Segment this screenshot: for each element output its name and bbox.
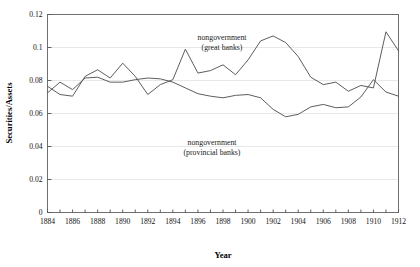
x-tick-label: 1900	[240, 217, 255, 226]
x-tick-label: 1892	[140, 217, 155, 226]
x-tick-label: 1912	[391, 217, 406, 226]
securities-assets-line-chart: 1884188618881890189218941896189819001902…	[0, 0, 420, 267]
y-axis-title: Securities/Assets	[4, 82, 14, 144]
x-tick-label: 1886	[65, 217, 80, 226]
x-tick-label: 1898	[215, 217, 230, 226]
x-tick-label: 1894	[165, 217, 180, 226]
y-axis-tickmarks	[48, 15, 52, 213]
y-tick-label: 0.08	[29, 76, 42, 85]
series-line-provincial-banks	[48, 77, 399, 117]
x-tick-label: 1902	[266, 217, 281, 226]
y-tick-label: 0.04	[29, 142, 42, 151]
x-tick-label: 1906	[316, 217, 331, 226]
annotation-great-banks-line1: nongovernment	[198, 33, 248, 42]
y-tick-label: 0.06	[29, 109, 42, 118]
x-tick-label: 1888	[90, 217, 105, 226]
gridlines	[48, 48, 399, 180]
y-tick-label: 0.1	[33, 43, 43, 52]
chart-container: 1884188618881890189218941896189819001902…	[0, 0, 420, 267]
y-axis-tick-labels: 00.020.040.060.080.10.12	[29, 10, 43, 217]
y-tick-label: 0.12	[29, 10, 42, 19]
x-tick-label: 1890	[115, 217, 130, 226]
y-tick-label: 0.02	[29, 175, 42, 184]
annotation-provincial-banks-line2: (provincial banks)	[184, 148, 241, 157]
annotation-great-banks-line2: (great banks)	[202, 43, 243, 52]
x-tick-label: 1908	[341, 217, 356, 226]
x-tick-label: 1904	[291, 217, 306, 226]
annotation-provincial-banks-line1: nongovernment	[188, 138, 238, 147]
x-axis-title: Year	[214, 250, 231, 260]
x-tick-label: 1884	[40, 217, 55, 226]
y-tick-label: 0	[39, 208, 43, 217]
x-tick-label: 1910	[366, 217, 381, 226]
x-tick-label: 1896	[190, 217, 205, 226]
x-axis-tick-labels: 1884188618881890189218941896189819001902…	[40, 217, 406, 226]
